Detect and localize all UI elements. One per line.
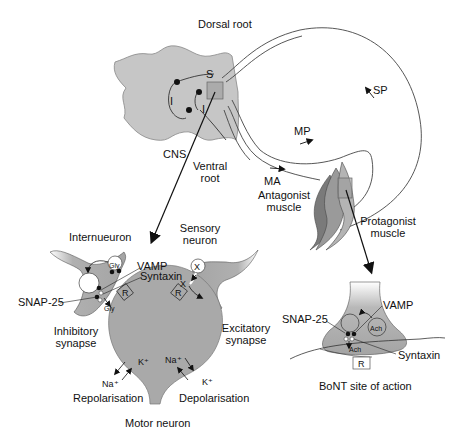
mp-label: MP — [294, 125, 311, 137]
depolarisation-label: Depolarisation — [179, 392, 249, 404]
sensory-neuron-label: Sensory neuron — [172, 222, 228, 246]
excitatory-synapse-label: Excitatory synapse — [214, 322, 278, 346]
antagonist-muscle-label: Antagonist muscle — [252, 189, 316, 213]
sensory-s-label: S — [206, 68, 213, 80]
synaptic-vesicle-docking — [79, 273, 99, 293]
protagonist-muscle-label: Protagonist muscle — [352, 215, 424, 239]
mp-direction-arrow — [300, 140, 312, 144]
dorsal-root-label: Dorsal root — [198, 18, 252, 30]
zoom-region-box-nmj — [338, 178, 352, 198]
inhibitory-synapse-label: Inhibitory synapse — [44, 325, 108, 349]
nmj-snap25-label: SNAP-25 — [282, 313, 328, 325]
receptor-left-label: R — [122, 287, 129, 299]
interneuron-i-label: I — [170, 95, 173, 107]
muscle-pair — [310, 162, 354, 250]
botulinum-toxin-mechanism-diagram: Dorsal root S I I CNS Ventral root SP MP… — [0, 0, 460, 447]
bont-site-caption: BoNT site of action — [319, 380, 412, 392]
motor-efferent-fiber-antagonist — [228, 106, 320, 180]
na-plus-right-label: Na⁺ — [165, 354, 182, 366]
receptor-right-label: R — [175, 287, 182, 299]
k-plus-right-label: K⁺ — [202, 376, 213, 388]
ma-label: MA — [264, 175, 281, 187]
motor-nerve-terminal — [323, 282, 407, 355]
gly-vesicle-label: Gly — [109, 260, 120, 272]
nmj-syntaxin-label: Syntaxin — [398, 349, 440, 361]
nmj-ach-release-label: Ach — [349, 344, 361, 356]
nmj-vamp-label: VAMP — [383, 299, 413, 311]
internueuron-label: Internueuron — [69, 231, 131, 243]
na-plus-left-label: Na⁺ — [102, 378, 119, 390]
na-influx-arrow-left — [122, 369, 131, 380]
k-efflux-arrow — [115, 362, 125, 374]
zoom-region-box-cns — [207, 82, 223, 99]
nmj-ach-vesicle-label: Ach — [370, 323, 382, 335]
cns-label: CNS — [163, 148, 186, 160]
interneuron-i2-label: I — [202, 103, 205, 115]
motor-neuron-label: Motor neuron — [125, 417, 190, 429]
nmj-receptor-label: R — [358, 358, 365, 370]
syntaxin-label: Syntaxin — [140, 270, 182, 282]
k-plus-left-label: K⁺ — [138, 356, 149, 368]
cropped-header-text — [130, 0, 340, 1]
interneuron-cell-body — [196, 89, 202, 95]
ventral-root-label: Ventral root — [192, 160, 228, 184]
interneuron-cell-body — [174, 79, 180, 85]
motor-neuron-cell-body — [186, 107, 192, 113]
repolarisation-label: Repolarisation — [73, 392, 143, 404]
x-vesicle-label: X — [194, 261, 200, 273]
sp-label: SP — [373, 84, 388, 96]
snap25-label: SNAP-25 — [18, 296, 64, 308]
ma-direction-arrow — [270, 168, 284, 169]
gly-release-label: Gly — [104, 303, 115, 315]
